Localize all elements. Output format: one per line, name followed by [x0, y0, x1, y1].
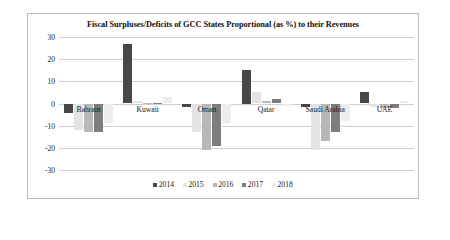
bar-uae-2018[interactable] [400, 101, 409, 103]
plot-area: 3020100-10-20-30 BahrainKuwaitOmanQatarS… [59, 37, 414, 170]
bar-slot [400, 37, 409, 170]
category-label-qatar: Qatar [237, 105, 296, 114]
bar-uae-2014[interactable] [360, 92, 369, 103]
legend-item-2017[interactable]: 2017 [242, 180, 263, 189]
bar-set [296, 37, 355, 170]
bar-qatar-2016[interactable] [262, 101, 271, 103]
bar-group: UAE [355, 37, 414, 170]
bar-set [177, 37, 236, 170]
y-axis-tick-label: 20 [47, 55, 55, 64]
y-axis-tick-label: 10 [47, 77, 55, 86]
bar-kuwait-2016[interactable] [143, 103, 152, 104]
bar-qatar-2015[interactable] [252, 92, 261, 103]
bar-slot [321, 37, 330, 170]
bar-slot [104, 37, 113, 170]
gridline: -30 [59, 170, 414, 171]
bar-kuwait-2017[interactable] [153, 103, 162, 104]
legend-label: 2016 [218, 180, 233, 189]
chart-container: Fiscal Surpluses/Deficits of GCC States … [27, 13, 419, 199]
category-label-bahrain: Bahrain [59, 105, 118, 114]
legend-swatch-icon [242, 183, 246, 187]
y-axis-tick-label: 30 [47, 33, 55, 42]
legend-swatch-icon [153, 183, 157, 187]
bar-slot [380, 37, 389, 170]
bar-slot [212, 37, 221, 170]
legend-swatch-icon [272, 183, 276, 187]
bar-slot [94, 37, 103, 170]
bar-slot [242, 37, 251, 170]
bar-group: Bahrain [59, 37, 118, 170]
bar-set [59, 37, 118, 170]
bar-group: Qatar [237, 37, 296, 170]
legend-label: 2018 [278, 180, 293, 189]
bar-slot [64, 37, 73, 170]
legend-item-2018[interactable]: 2018 [272, 180, 293, 189]
y-axis-tick-label: -20 [45, 143, 55, 152]
bar-qatar-2014[interactable] [242, 70, 251, 103]
bar-slot [272, 37, 281, 170]
bar-group: Oman [177, 37, 236, 170]
bar-group: Saudi Arabia [296, 37, 355, 170]
bar-slot [360, 37, 369, 170]
bar-slot [252, 37, 261, 170]
bar-slot [163, 37, 172, 170]
bar-slot [331, 37, 340, 170]
legend-swatch-icon [183, 183, 187, 187]
bar-slot [182, 37, 191, 170]
bar-slot [282, 37, 291, 170]
bar-group: Kuwait [118, 37, 177, 170]
bar-slot [262, 37, 271, 170]
y-axis-tick-label: -10 [45, 121, 55, 130]
bar-slot [222, 37, 231, 170]
legend-label: 2017 [248, 180, 263, 189]
bar-slot [192, 37, 201, 170]
bar-set [237, 37, 296, 170]
bar-set [118, 37, 177, 170]
bar-kuwait-2018[interactable] [163, 97, 172, 104]
bar-slot [153, 37, 162, 170]
category-label-saudi-arabia: Saudi Arabia [296, 105, 355, 114]
legend-label: 2015 [188, 180, 203, 189]
category-label-kuwait: Kuwait [118, 105, 177, 114]
legend-item-2016[interactable]: 2016 [213, 180, 234, 189]
bar-set [355, 37, 414, 170]
bar-kuwait-2014[interactable] [123, 44, 132, 104]
chart-title: Fiscal Surpluses/Deficits of GCC States … [28, 20, 418, 29]
bar-kuwait-2015[interactable] [133, 101, 142, 103]
y-axis-tick-label: 0 [51, 99, 55, 108]
bar-slot [301, 37, 310, 170]
bar-slot [143, 37, 152, 170]
bar-slot [311, 37, 320, 170]
legend-swatch-icon [213, 183, 217, 187]
legend-item-2014[interactable]: 2014 [153, 180, 174, 189]
legend-item-2015[interactable]: 2015 [183, 180, 204, 189]
bar-slot [74, 37, 83, 170]
chart-legend: 20142015201620172018 [28, 180, 418, 189]
y-axis-tick-label: -30 [45, 166, 55, 175]
bar-slot [84, 37, 93, 170]
category-label-oman: Oman [177, 105, 236, 114]
bar-groups: BahrainKuwaitOmanQatarSaudi ArabiaUAE [59, 37, 414, 170]
bar-slot [123, 37, 132, 170]
bar-qatar-2017[interactable] [272, 99, 281, 103]
bar-slot [390, 37, 399, 170]
bar-slot [341, 37, 350, 170]
legend-label: 2014 [159, 180, 174, 189]
bar-slot [133, 37, 142, 170]
bar-slot [370, 37, 379, 170]
bar-slot [202, 37, 211, 170]
category-label-uae: UAE [355, 105, 414, 114]
